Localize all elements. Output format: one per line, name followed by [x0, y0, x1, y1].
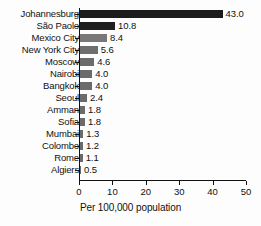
bar-row: Seoul2.4 — [0, 92, 261, 104]
bar-row: New York City5.6 — [0, 44, 261, 56]
bar-value-label: 4.0 — [95, 80, 108, 92]
bar-value-label: 43.0 — [226, 8, 244, 20]
bar-row: Bangkok4.0 — [0, 80, 261, 92]
category-label: Colombo — [42, 140, 79, 152]
category-label: Johannesburg — [21, 8, 79, 20]
bar-value-label: 4.0 — [95, 68, 108, 80]
bar — [79, 46, 98, 54]
bar-value-label: 1.2 — [86, 140, 99, 152]
bar-row: Nairobi4.0 — [0, 68, 261, 80]
bar-row: São Paolo10.8 — [0, 20, 261, 32]
bar-row: Rome1.1 — [0, 152, 261, 164]
bar — [79, 10, 223, 18]
bar-row: Johannesburg43.0 — [0, 8, 261, 20]
bar — [79, 94, 87, 102]
bar-value-label: 10.8 — [118, 20, 136, 32]
bar-value-label: 0.5 — [84, 164, 97, 176]
x-axis-tick — [246, 181, 247, 185]
bar-value-label: 5.6 — [101, 44, 114, 56]
x-axis-tick-label: 0 — [76, 186, 81, 198]
bar-chart: Johannesburg43.0São Paolo10.8Mexico City… — [0, 0, 261, 226]
x-axis-tick — [179, 181, 180, 185]
x-axis-tick — [213, 181, 214, 185]
category-label: São Paolo — [37, 20, 80, 32]
x-axis-tick-label: 10 — [107, 186, 118, 198]
bar-row: Colombo1.2 — [0, 140, 261, 152]
x-axis-title: Per 100,000 population — [0, 202, 261, 213]
bar-value-label: 1.8 — [88, 104, 101, 116]
bar — [79, 34, 107, 42]
bar-value-label: 4.6 — [97, 56, 110, 68]
x-axis-tick-label: 30 — [174, 186, 185, 198]
x-axis-tick-label: 20 — [141, 186, 152, 198]
bar-row: Mumbai1.3 — [0, 128, 261, 140]
x-axis-tick-label: 40 — [207, 186, 218, 198]
bar-row: Mexico City8.4 — [0, 32, 261, 44]
bar-row: Amman1.8 — [0, 104, 261, 116]
x-axis-line — [79, 180, 246, 181]
x-axis-tick — [146, 181, 147, 185]
bar-value-label: 8.4 — [110, 32, 123, 44]
bar-value-label: 1.3 — [86, 128, 99, 140]
bar — [79, 58, 94, 66]
category-label: Moscow — [45, 56, 79, 68]
x-axis-tick — [112, 181, 113, 185]
bar — [79, 70, 92, 78]
bar — [79, 22, 115, 30]
x-axis-tick-label: 50 — [241, 186, 252, 198]
bar-row: Sofia1.8 — [0, 116, 261, 128]
bar-rows: Johannesburg43.0São Paolo10.8Mexico City… — [0, 8, 261, 176]
bar-value-label: 1.1 — [86, 152, 99, 164]
bar-value-label: 2.4 — [90, 92, 103, 104]
bar-row: Moscow4.6 — [0, 56, 261, 68]
bar-row: Algiers0.5 — [0, 164, 261, 176]
category-label: New York City — [22, 44, 79, 56]
plot-area: Johannesburg43.0São Paolo10.8Mexico City… — [0, 8, 261, 180]
x-axis-tick — [79, 181, 80, 185]
bar-value-label: 1.8 — [88, 116, 101, 128]
category-label: Mexico City — [32, 32, 79, 44]
y-axis-line — [79, 8, 80, 180]
category-label: Bangkok — [43, 80, 79, 92]
bar — [79, 82, 92, 90]
